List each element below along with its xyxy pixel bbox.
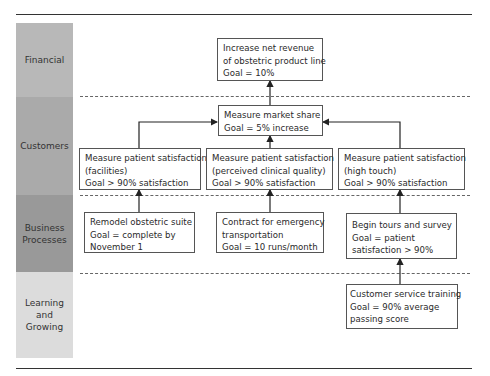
node-line: Customer service training (350, 288, 452, 301)
node-line: Begin tours and survey (352, 219, 451, 232)
node-line: Measure patient satisfaction (212, 152, 327, 165)
node-line: Measure patient satisfaction (85, 152, 195, 165)
node-begin-tours-survey: Begin tours and survey Goal = patient sa… (346, 213, 457, 259)
node-line: satisfaction > 90% (352, 244, 451, 257)
node-line: Goal = 10% (223, 67, 317, 80)
node-line: Increase net revenue (223, 42, 317, 55)
node-satisfaction-clinical-quality: Measure patient satisfaction (perceived … (206, 148, 333, 190)
node-line: Remodel obstetric suite (90, 216, 189, 229)
node-line: Goal > 90% satisfaction (212, 177, 327, 190)
node-line: Goal = 5% increase (224, 122, 317, 135)
node-line: transportation (222, 229, 318, 242)
node-contract-emergency-transportation: Contract for emergency transportation Go… (216, 212, 324, 253)
node-satisfaction-facilities: Measure patient satisfaction (facilities… (79, 148, 201, 190)
node-line: Goal = 10 runs/month (222, 241, 318, 254)
node-line: (perceived clinical quality) (212, 165, 327, 178)
node-customer-service-training: Customer service training Goal = 90% ave… (346, 284, 458, 329)
node-measure-market-share: Measure market share Goal = 5% increase (218, 105, 323, 136)
node-line: Goal = 90% average (350, 301, 452, 314)
node-line: Goal = complete by (90, 229, 189, 242)
node-line: Goal > 90% satisfaction (85, 177, 195, 190)
node-line: Contract for emergency (222, 216, 318, 229)
node-line: (high touch) (344, 165, 459, 178)
node-line: of obstetric product line (223, 55, 317, 68)
node-satisfaction-high-touch: Measure patient satisfaction (high touch… (338, 148, 465, 190)
node-increase-net-revenue: Increase net revenue of obstetric produc… (217, 38, 323, 81)
node-line: Goal > 90% satisfaction (344, 177, 459, 190)
node-line: November 1 (90, 241, 189, 254)
node-line: Measure market share (224, 109, 317, 122)
node-line: (facilities) (85, 165, 195, 178)
node-line: passing score (350, 313, 452, 326)
node-line: Measure patient satisfaction (344, 152, 459, 165)
node-line: Goal = patient (352, 232, 451, 245)
node-remodel-obstetric-suite: Remodel obstetric suite Goal = complete … (84, 212, 195, 253)
